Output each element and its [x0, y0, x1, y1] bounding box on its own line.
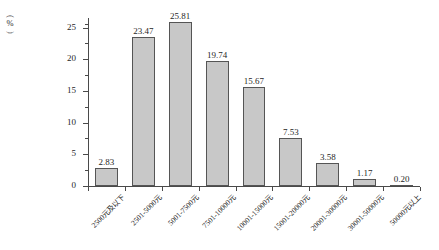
y-tick-minor-25.5	[85, 24, 88, 25]
y-tick-minor-17.5	[85, 75, 88, 76]
bar-value-label-0: 2.83	[99, 157, 115, 167]
x-axis-label-text-8: 50000元以上	[387, 193, 421, 227]
y-tick-minor-12.5	[85, 107, 88, 108]
bar-2: 25.81	[169, 22, 192, 186]
x-tick-0	[88, 187, 89, 191]
x-axis-label-text-1: 2501-5000元	[129, 193, 163, 227]
y-tick-10: 10	[83, 123, 88, 124]
y-tick-minor-22.5	[85, 43, 88, 44]
y-tick-5: 5	[83, 154, 88, 155]
x-axis-label-text-5: 15001-20000元	[272, 193, 312, 233]
bar-value-label-1: 23.47	[133, 26, 153, 36]
y-tick-label-5: 5	[72, 148, 77, 159]
x-axis-label-text-6: 20001-30000元	[309, 193, 349, 233]
y-tick-label-0: 0	[72, 180, 77, 191]
bar-3: 19.74	[206, 61, 229, 186]
y-axis-line	[88, 18, 89, 186]
y-tick-minor-2.5	[85, 170, 88, 171]
bar-0: 2.83	[95, 168, 118, 186]
y-tick-25: 25	[83, 28, 88, 29]
y-tick-20: 20	[83, 59, 88, 60]
bar-value-label-3: 19.74	[207, 50, 227, 60]
x-axis-label-text-2: 5001-7500元	[166, 193, 200, 227]
y-tick-15: 15	[83, 91, 88, 92]
y-tick-label-20: 20	[67, 53, 76, 64]
y-axis-title-char-open: (	[7, 15, 14, 17]
y-tick-label-25: 25	[67, 22, 76, 33]
x-axis-label-text-4: 10001-15000元	[235, 193, 275, 233]
x-axis-label-text-3: 7501-10000元	[201, 193, 238, 230]
x-axis-label-text-7: 30001-50000元	[345, 193, 385, 233]
y-tick-minor-7.5	[85, 138, 88, 139]
bar-value-label-6: 3.58	[320, 152, 336, 162]
y-axis-title-char-percent: %	[6, 20, 13, 29]
y-tick-label-15: 15	[67, 85, 76, 96]
bar-chart: ( % ) 0510152025 2.8323.4725.8119.7415.6…	[0, 0, 439, 250]
y-axis-title: ( % )	[3, 13, 17, 36]
y-tick-label-10: 10	[67, 117, 76, 128]
bar-value-label-4: 15.67	[244, 76, 264, 86]
bar-value-label-5: 7.53	[283, 127, 299, 137]
x-axis-label-text-0: 2500元及以下	[90, 193, 127, 230]
y-axis-title-char-close: )	[7, 31, 14, 33]
bar-value-label-2: 25.81	[170, 11, 190, 21]
plot-area: 0510152025 2.8323.4725.8119.7415.677.533…	[88, 18, 420, 186]
